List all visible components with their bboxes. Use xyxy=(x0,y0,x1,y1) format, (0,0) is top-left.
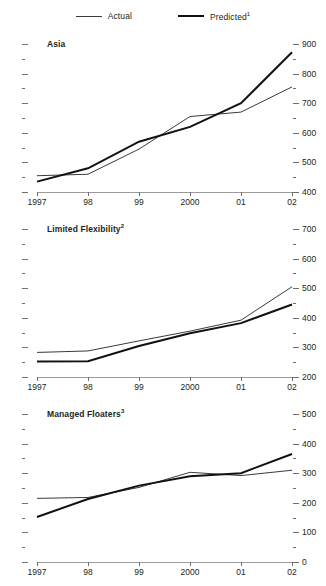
x-tick-1997 xyxy=(37,562,38,566)
x-axis-label-99: 99 xyxy=(134,198,143,207)
y-tick-right-major-700 xyxy=(293,229,299,230)
y-tick-left-major-400 xyxy=(22,192,28,193)
legend-item-actual: Actual xyxy=(76,12,132,21)
x-axis-label-2000: 2000 xyxy=(181,568,200,577)
y-tick-left-major-500 xyxy=(22,414,28,415)
y-tick-left-minor-650 xyxy=(22,118,25,119)
x-tick-01 xyxy=(241,377,242,381)
y-tick-left-minor-450 xyxy=(22,177,25,178)
series-line-predicted-limited-flexibility xyxy=(37,304,292,361)
y-tick-right-major-600 xyxy=(293,259,299,260)
y-tick-left-major-700 xyxy=(22,229,28,230)
legend-swatch-predicted-icon xyxy=(178,15,204,17)
series-line-predicted-managed-floaters xyxy=(37,454,292,517)
y-tick-right-minor-850 xyxy=(293,59,296,60)
y-tick-left-minor-750 xyxy=(22,88,25,89)
y-tick-left-major-500 xyxy=(22,288,28,289)
y-tick-left-major-800 xyxy=(22,74,28,75)
y-axis-label-700: 700 xyxy=(302,225,316,234)
x-tick-02 xyxy=(292,562,293,566)
y-axis-label-100: 100 xyxy=(302,528,316,537)
x-tick-2000 xyxy=(190,377,191,381)
legend-label-predicted: Predicted1 xyxy=(210,11,250,21)
y-tick-right-minor-450 xyxy=(293,429,296,430)
y-axis-label-500: 500 xyxy=(302,284,316,293)
y-tick-right-major-700 xyxy=(293,103,299,104)
y-tick-right-major-600 xyxy=(293,133,299,134)
y-axis-label-300: 300 xyxy=(302,469,316,478)
y-tick-right-minor-550 xyxy=(293,148,296,149)
x-axis-label-1997: 1997 xyxy=(28,198,47,207)
y-axis-label-400: 400 xyxy=(302,440,316,449)
y-tick-right-major-800 xyxy=(293,74,299,75)
x-axis-label-02: 02 xyxy=(287,568,296,577)
y-tick-right-major-100 xyxy=(293,532,299,533)
plot-area-managed-floaters xyxy=(37,414,292,562)
y-tick-right-minor-650 xyxy=(293,118,296,119)
x-axis-label-01: 01 xyxy=(236,383,245,392)
chart-panel-asia: Asia 4005006007008009001997989920000102 xyxy=(0,30,326,220)
x-tick-01 xyxy=(241,562,242,566)
x-axis-label-99: 99 xyxy=(134,383,143,392)
y-tick-left-major-200 xyxy=(22,503,28,504)
y-tick-left-major-300 xyxy=(22,347,28,348)
y-axis-label-200: 200 xyxy=(302,499,316,508)
chart-legend: Actual Predicted1 xyxy=(0,6,326,26)
x-tick-2000 xyxy=(190,562,191,566)
y-axis-label-900: 900 xyxy=(302,40,316,49)
plot-area-limited-flexibility xyxy=(37,229,292,377)
y-tick-left-minor-550 xyxy=(22,148,25,149)
x-tick-02 xyxy=(292,192,293,196)
y-tick-right-major-400 xyxy=(293,444,299,445)
y-axis-label-600: 600 xyxy=(302,129,316,138)
y-tick-right-major-200 xyxy=(293,377,299,378)
y-tick-left-minor-350 xyxy=(22,333,25,334)
x-tick-02 xyxy=(292,377,293,381)
x-axis-label-1997: 1997 xyxy=(28,568,47,577)
y-tick-right-major-500 xyxy=(293,414,299,415)
series-group-managed-floaters xyxy=(37,414,292,562)
y-axis-label-500: 500 xyxy=(302,410,316,419)
x-tick-98 xyxy=(88,377,89,381)
y-tick-right-minor-150 xyxy=(293,518,296,519)
chart-panel-managed-floaters: Managed Floaters3 0100200300400500199798… xyxy=(0,400,326,586)
y-axis-label-300: 300 xyxy=(302,343,316,352)
y-axis-label-400: 400 xyxy=(302,188,316,197)
y-tick-left-minor-850 xyxy=(22,59,25,60)
y-tick-right-minor-350 xyxy=(293,458,296,459)
y-axis-label-400: 400 xyxy=(302,314,316,323)
y-tick-right-minor-50 xyxy=(293,547,296,548)
x-tick-01 xyxy=(241,192,242,196)
y-tick-left-major-500 xyxy=(22,162,28,163)
y-axis-label-600: 600 xyxy=(302,255,316,264)
x-axis-asia xyxy=(37,192,292,193)
x-tick-99 xyxy=(139,377,140,381)
y-tick-right-major-500 xyxy=(293,288,299,289)
y-tick-right-major-400 xyxy=(293,192,299,193)
x-axis-label-98: 98 xyxy=(83,383,92,392)
chart-panel-limited-flexibility: Limited Flexibility2 2003004005006007001… xyxy=(0,215,326,405)
x-tick-99 xyxy=(139,562,140,566)
y-tick-left-major-700 xyxy=(22,103,28,104)
series-line-actual-asia xyxy=(37,87,292,176)
series-group-limited-flexibility xyxy=(37,229,292,377)
y-tick-left-major-400 xyxy=(22,444,28,445)
x-tick-1997 xyxy=(37,192,38,196)
y-tick-right-minor-450 xyxy=(293,303,296,304)
x-axis-label-02: 02 xyxy=(287,198,296,207)
y-tick-right-minor-650 xyxy=(293,244,296,245)
y-tick-right-minor-550 xyxy=(293,273,296,274)
x-axis-label-2000: 2000 xyxy=(181,383,200,392)
y-tick-left-minor-150 xyxy=(22,518,25,519)
legend-swatch-actual-icon xyxy=(76,16,102,17)
y-axis-label-200: 200 xyxy=(302,373,316,382)
x-tick-98 xyxy=(88,192,89,196)
y-tick-right-major-400 xyxy=(293,318,299,319)
legend-footnote-marker: 1 xyxy=(247,11,250,17)
y-tick-left-major-400 xyxy=(22,318,28,319)
y-tick-left-major-900 xyxy=(22,44,28,45)
x-axis-label-2000: 2000 xyxy=(181,198,200,207)
y-tick-left-minor-350 xyxy=(22,458,25,459)
y-axis-label-0: 0 xyxy=(302,558,307,567)
x-axis-label-1997: 1997 xyxy=(28,383,47,392)
